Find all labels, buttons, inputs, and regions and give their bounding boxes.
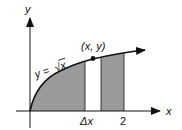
tick-label-2: 2 (120, 115, 126, 127)
y-axis-label: y (24, 3, 32, 15)
delta-x-label: Δx (79, 115, 93, 127)
point-xy (91, 56, 96, 61)
x-axis-label: x (165, 105, 172, 117)
diagram-canvas: y x (x, y) Δx 2 y = √ x (0, 0, 182, 130)
point-label: (x, y) (81, 40, 106, 52)
shaded-strip-right (101, 53, 124, 111)
